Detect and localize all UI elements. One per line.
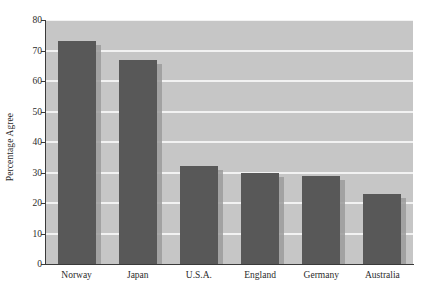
- x-axis-tick-label: Norway: [61, 270, 92, 280]
- bar-australia[interactable]: [363, 194, 401, 264]
- plot-area: [46, 20, 413, 264]
- bar-u-s-a[interactable]: [180, 166, 218, 264]
- x-axis-tick-label: Japan: [127, 270, 149, 280]
- y-axis-tick-mark: [41, 203, 46, 204]
- gridline: [46, 50, 413, 52]
- y-axis-tick-mark: [41, 234, 46, 235]
- bar-body: [241, 173, 279, 265]
- gridline: [46, 233, 413, 235]
- bar-germany[interactable]: [302, 176, 340, 264]
- x-axis-tick-labels: NorwayJapanU.S.A.EnglandGermanyAustralia: [46, 268, 413, 292]
- y-axis-tick-mark: [41, 142, 46, 143]
- y-axis-title: Percentage Agree: [0, 0, 20, 294]
- bar-body: [119, 60, 157, 264]
- bar-body: [58, 41, 96, 264]
- gridline: [46, 20, 413, 21]
- y-axis-tick-mark: [41, 112, 46, 113]
- y-axis-tick-mark: [41, 264, 46, 265]
- bar-japan[interactable]: [119, 60, 157, 264]
- bar-england[interactable]: [241, 173, 279, 265]
- y-axis-tick-mark: [41, 81, 46, 82]
- x-axis-tick-label: England: [244, 270, 276, 280]
- y-axis-tick-labels: 01020304050607080: [18, 0, 42, 294]
- x-axis-line: [45, 264, 414, 265]
- bar-body: [302, 176, 340, 264]
- gridline: [46, 172, 413, 174]
- y-axis-tick-mark: [41, 173, 46, 174]
- x-axis-tick-label: U.S.A.: [186, 270, 212, 280]
- bar-chart-figure: Percentage Agree 01020304050607080 Norwa…: [0, 0, 432, 294]
- y-axis-tick-mark: [41, 51, 46, 52]
- gridline: [46, 111, 413, 113]
- y-axis-tick-mark: [41, 20, 46, 21]
- bar-norway[interactable]: [58, 41, 96, 264]
- bar-body: [180, 166, 218, 264]
- bar-body: [363, 194, 401, 264]
- gridline: [46, 141, 413, 143]
- y-axis-title-label: Percentage Agree: [5, 113, 15, 181]
- x-axis-tick-label: Australia: [365, 270, 400, 280]
- x-axis-tick-label: Germany: [304, 270, 339, 280]
- gridline: [46, 202, 413, 204]
- gridline: [46, 80, 413, 82]
